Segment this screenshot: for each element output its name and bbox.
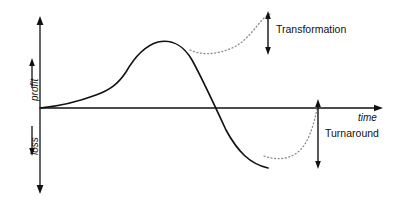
turnaround-up-arrowhead [315,99,321,107]
turnaround-dotted-curve [264,104,318,159]
turnaround-down-arrowhead [315,161,321,169]
x-axis-time-label: time [358,113,377,123]
horizontal-axis [40,105,383,111]
transformation-label: Transformation [276,24,346,35]
transformation-down-arrowhead [265,47,271,55]
baseline-performance-curve [40,41,268,168]
transformation-dotted-curve [190,14,270,54]
transformation-up-arrowhead [265,11,271,19]
y-axis-down-arrowhead [37,185,44,194]
transformation-measure-arrow [265,11,271,55]
profit-arrowhead [29,58,35,66]
y-axis-up-arrowhead [37,16,44,25]
y-axis-profit-label: profit [30,79,40,101]
turnaround-label: Turnaround [325,128,379,139]
x-axis-arrowhead [374,105,383,111]
y-axis-loss-label: loss [30,137,40,155]
profit-loss-over-time-diagram: profit loss time Transformation Turnarou… [0,0,396,200]
turnaround-measure-arrow [315,99,321,169]
vertical-axis [37,16,44,194]
